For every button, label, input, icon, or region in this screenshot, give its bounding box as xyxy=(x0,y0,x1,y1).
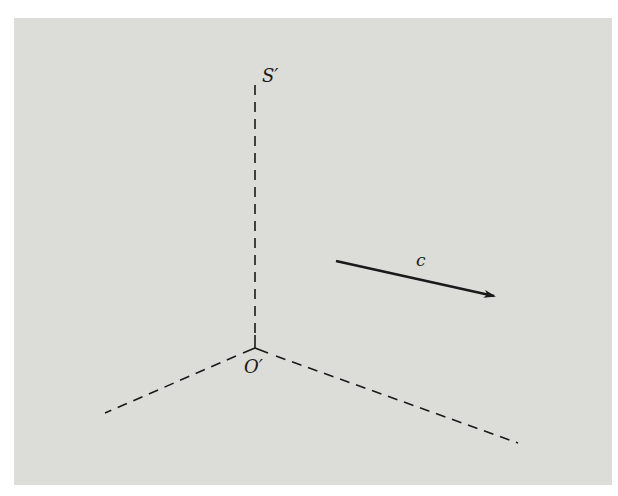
right-axis-stub xyxy=(255,348,268,353)
left-axis xyxy=(105,356,236,413)
coordinate-diagram: S′ O′ c xyxy=(0,0,618,496)
left-axis-stub xyxy=(243,348,255,353)
origin-label: O′ xyxy=(244,356,263,377)
frame-label: S′ xyxy=(262,65,278,86)
vector-label: c xyxy=(416,250,426,270)
right-axis xyxy=(276,356,518,443)
vector-c-arrow xyxy=(336,261,494,296)
